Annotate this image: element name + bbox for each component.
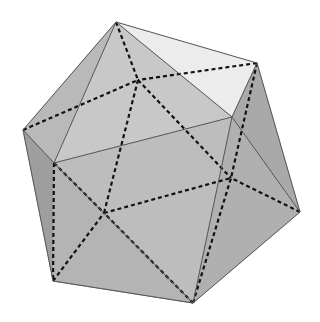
hidden-edge	[53, 163, 54, 281]
icosahedron-figure	[0, 0, 320, 322]
icosahedron-faces	[23, 22, 300, 303]
